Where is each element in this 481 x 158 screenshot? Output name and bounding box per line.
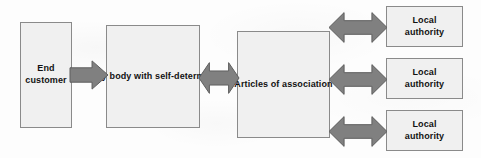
arrow-articles-to-authority-2-icon — [329, 64, 387, 95]
node-local-authority-2: Local authority — [386, 58, 463, 99]
node-local-authority-1: Local authority — [386, 6, 463, 47]
node-label-local-authority-2: Local authority — [403, 67, 446, 91]
node-local-authority-3: Local authority — [386, 110, 463, 151]
node-label-articles: Articles of association — [232, 79, 334, 91]
node-end-customer: End customer — [20, 22, 72, 128]
node-label-local-authority-1: Local authority — [403, 15, 446, 39]
arrow-articles-to-authority-1-icon — [329, 12, 387, 43]
node-articles: Articles of association — [237, 31, 330, 138]
node-label-local-authority-3: Local authority — [403, 119, 446, 143]
node-delivery-body: Delivery body with self-determination — [106, 25, 200, 128]
diagram-canvas: End customerDelivery body with self-dete… — [0, 0, 481, 158]
node-label-delivery-body: Delivery body with self-determination — [69, 71, 237, 83]
node-label-end-customer: End customer — [23, 63, 68, 87]
arrow-articles-to-authority-3-icon — [329, 116, 387, 147]
